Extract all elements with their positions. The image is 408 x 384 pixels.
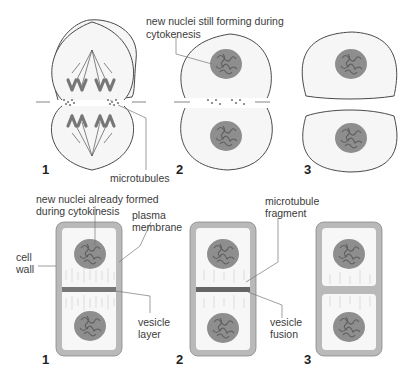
plant-cell-3 xyxy=(316,222,382,356)
label-cell-wall: cell xyxy=(16,251,32,263)
label-vesicle-layer: vesicle xyxy=(138,316,170,328)
label-nuclei-formed-2: during cytokinesis xyxy=(36,205,119,217)
label-microtubule-fragment-2: fragment xyxy=(265,207,306,219)
plant-cell-2 xyxy=(190,218,282,356)
step-number-bottom-3: 3 xyxy=(304,352,311,367)
label-vesicle-fusion: vesicle xyxy=(270,316,302,328)
animal-cell-2 xyxy=(174,34,272,170)
animal-cell-1 xyxy=(36,20,146,170)
label-vesicle-layer-2: layer xyxy=(138,328,161,340)
animal-cell-3 xyxy=(302,32,397,172)
step-number-top-3: 3 xyxy=(304,162,311,177)
label-nuclei-formed: new nuclei already formed xyxy=(36,193,159,205)
step-number-top-1: 1 xyxy=(42,162,49,177)
step-number-top-2: 2 xyxy=(176,162,183,177)
step-number-bottom-1: 1 xyxy=(42,352,49,367)
label-microtubule-fragment: microtubule xyxy=(265,195,319,207)
label-plasma-membrane-2: membrane xyxy=(132,221,182,233)
label-microtubules: microtubules xyxy=(110,172,170,184)
label-vesicle-fusion-2: fusion xyxy=(270,328,298,340)
label-plasma-membrane: plasma xyxy=(132,209,166,221)
step-number-bottom-2: 2 xyxy=(176,352,183,367)
label-nuclei-forming-2: cytokenesis xyxy=(146,28,201,40)
label-cell-wall-2: wall xyxy=(16,263,34,275)
label-nuclei-forming: new nuclei still forming during xyxy=(146,15,284,27)
cytokinesis-diagram xyxy=(0,0,408,384)
